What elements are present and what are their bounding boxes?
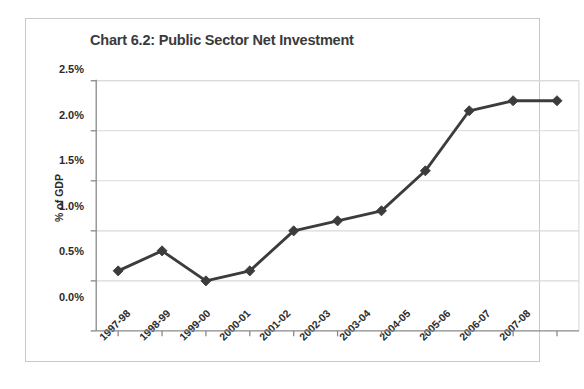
series-marker-diamond xyxy=(157,246,167,256)
chart-figure-frame: Chart 6.2: Public Sector Net Investment … xyxy=(25,18,540,362)
y-axis-tick-label: 0.5% xyxy=(38,245,84,257)
y-axis-label: % of GDP xyxy=(53,166,65,230)
series-marker-diamond xyxy=(464,106,474,116)
series-marker-diamond xyxy=(113,266,123,276)
y-axis-tick-label: 2.0% xyxy=(38,109,84,121)
y-axis-tick-label: 2.5% xyxy=(38,63,84,75)
y-axis-tick-label: 0.0% xyxy=(38,291,84,303)
series-marker-diamond xyxy=(420,166,430,176)
series-line xyxy=(118,101,557,281)
series-marker-diamond xyxy=(508,96,518,106)
series-marker-diamond xyxy=(333,216,343,226)
y-axis-tick-label: 1.5% xyxy=(38,154,84,166)
series-marker-diamond xyxy=(552,96,562,106)
series-marker-diamond xyxy=(201,276,211,286)
y-axis-tick-label: 1.0% xyxy=(38,200,84,212)
series-marker-diamond xyxy=(376,206,386,216)
series-marker-diamond xyxy=(245,266,255,276)
chart-title: Chart 6.2: Public Sector Net Investment xyxy=(90,32,354,48)
series-marker-diamond xyxy=(289,226,299,236)
